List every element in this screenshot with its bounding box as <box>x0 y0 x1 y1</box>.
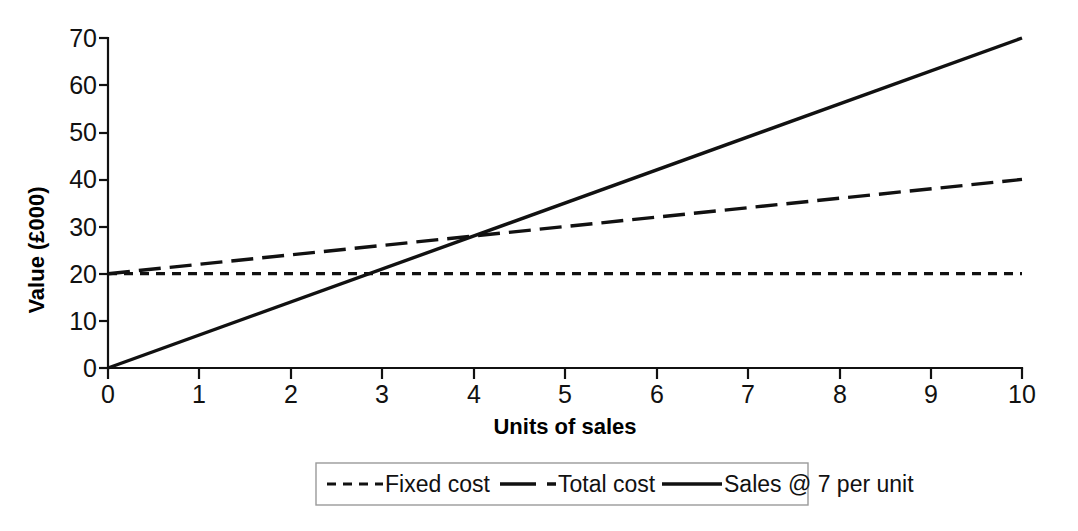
x-tick-label-5: 5 <box>558 380 572 408</box>
y-tick-label-0: 0 <box>83 354 97 382</box>
chart-legend: Fixed cost Total cost Sales @ 7 per unit <box>316 463 914 505</box>
x-tick-label-7: 7 <box>741 380 755 408</box>
x-tick-label-9: 9 <box>924 380 938 408</box>
x-tick-label-3: 3 <box>375 380 389 408</box>
y-axis-title: Value (£000) <box>24 186 49 313</box>
breakeven-chart: Value (£000) 70 60 50 40 30 20 10 0 <box>0 0 1078 531</box>
x-tick-label-8: 8 <box>833 380 847 408</box>
x-tick-label-6: 6 <box>650 380 664 408</box>
chart-canvas: Value (£000) 70 60 50 40 30 20 10 0 <box>0 0 1078 531</box>
y-tick-label-30: 30 <box>69 213 97 241</box>
y-tick-label-10: 10 <box>69 307 97 335</box>
legend-label-sales: Sales @ 7 per unit <box>724 471 914 497</box>
y-tick-label-60: 60 <box>69 71 97 99</box>
x-tick-label-0: 0 <box>101 380 115 408</box>
x-tick-label-10: 10 <box>1008 380 1036 408</box>
series-group <box>108 38 1022 368</box>
legend-label-fixed-cost: Fixed cost <box>385 471 490 497</box>
y-tick-label-70: 70 <box>69 24 97 52</box>
x-tick-label-4: 4 <box>467 380 481 408</box>
x-axis-title: Units of sales <box>493 414 636 439</box>
y-tick-label-20: 20 <box>69 260 97 288</box>
x-tick-label-2: 2 <box>284 380 298 408</box>
y-tick-label-50: 50 <box>69 118 97 146</box>
y-tick-label-40: 40 <box>69 165 97 193</box>
series-line-total-cost <box>108 179 1022 273</box>
legend-label-total-cost: Total cost <box>558 471 656 497</box>
series-line-sales <box>108 38 1022 368</box>
x-tick-label-1: 1 <box>192 380 206 408</box>
